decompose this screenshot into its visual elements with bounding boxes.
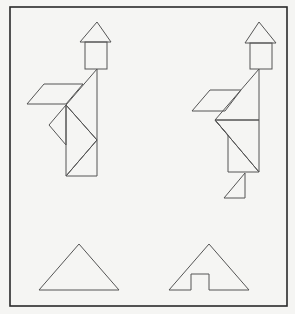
lower-quad (215, 120, 259, 172)
large-triangle-upper (215, 69, 259, 120)
figure-pieces (192, 69, 259, 198)
small-foot-triangle (224, 173, 245, 198)
bottom-triangle (66, 140, 97, 176)
house-body (85, 42, 107, 69)
large-triangle-upper (66, 69, 97, 140)
parallelogram (27, 84, 83, 104)
left-tangram-figure (27, 22, 111, 176)
house-roof (80, 22, 111, 42)
house-roof (245, 22, 276, 43)
right-side-triangle (66, 105, 97, 176)
tangram-diagram (0, 0, 295, 314)
notched-triangle (169, 244, 249, 290)
right-tangram-figure (192, 22, 276, 198)
parallelogram (192, 90, 241, 111)
bottom-shapes (39, 244, 249, 290)
small-triangle-left (49, 105, 66, 145)
figure-pieces (27, 69, 97, 176)
plain-triangle (39, 244, 119, 290)
house-body (250, 43, 272, 69)
